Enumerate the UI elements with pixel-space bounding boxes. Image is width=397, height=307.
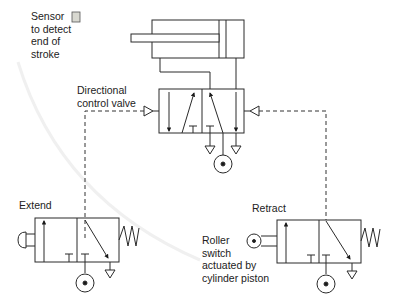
spring-icon: [361, 228, 380, 247]
roller-switch-label: Roller switch actuated by cylinder pisto…: [202, 234, 269, 284]
cylinder: [131, 20, 244, 89]
extend-valve: [18, 218, 139, 292]
piston-rod: [131, 34, 219, 42]
push-button-icon: [18, 232, 26, 248]
directional-control-valve: [144, 89, 259, 173]
pilot-lines: [85, 111, 326, 240]
pneumatic-diagram: Sensor to detect end of stroke Direction…: [0, 0, 397, 307]
retract-label: Retract: [252, 202, 286, 215]
sensor-label: Sensor to detect end of stroke: [31, 10, 71, 60]
sensor-icon: [72, 12, 80, 22]
extend-label: Extend: [19, 199, 52, 212]
dcv-label: Directional control valve: [77, 84, 136, 109]
spring-icon: [119, 226, 139, 246]
